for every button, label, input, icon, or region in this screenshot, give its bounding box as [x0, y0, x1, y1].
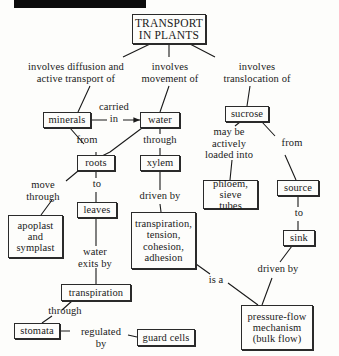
link-label-l-movement: involves movement of: [134, 61, 206, 84]
node-minerals[interactable]: minerals: [43, 112, 91, 128]
node-transport[interactable]: TRANSPORT IN PLANTS: [132, 14, 206, 44]
node-ttca[interactable]: transpiration, tension, cohesion, adhesi…: [131, 212, 196, 269]
link-label-l-through2: through: [40, 305, 90, 317]
node-label-stomata: stomata: [20, 325, 53, 336]
link-label-l-drivenby2: driven by: [249, 263, 307, 275]
node-transpiration[interactable]: transpiration: [61, 284, 131, 301]
node-pressureflow[interactable]: pressure-flow mechanism (bulk flow): [241, 305, 313, 350]
node-label-sucrose: sucrose: [231, 108, 263, 119]
node-label-apoplast: apoplast and symplast: [16, 220, 54, 254]
node-sink[interactable]: sink: [283, 230, 315, 246]
link-label-l-move: move through: [18, 179, 68, 202]
edge-sink-to-pressureflow: [262, 246, 292, 305]
node-label-phloem: phloem, sieve tubes: [207, 178, 254, 212]
node-label-ttca: transpiration, tension, cohesion, adhesi…: [135, 218, 192, 263]
link-label-l-drivenby1: driven by: [131, 190, 189, 202]
link-label-l-to2: to: [290, 207, 308, 219]
node-label-transport: TRANSPORT IN PLANTS: [135, 17, 203, 42]
node-apoplast[interactable]: apoplast and symplast: [8, 215, 63, 258]
node-label-pressureflow: pressure-flow mechanism (bulk flow): [247, 311, 306, 345]
node-water[interactable]: water: [140, 112, 180, 128]
edge-layer: [0, 0, 339, 356]
node-label-xylem: xylem: [147, 157, 174, 168]
node-phloem[interactable]: phloem, sieve tubes: [203, 180, 258, 209]
concept-map-canvas: TRANSPORT IN PLANTSmineralswatersucroser…: [0, 0, 339, 356]
link-label-l-translo: involves translocation of: [212, 61, 302, 84]
node-label-roots: roots: [85, 157, 107, 168]
link-label-l-carried: carried in: [93, 101, 135, 124]
node-label-leaves: leaves: [84, 204, 111, 215]
node-stomata[interactable]: stomata: [14, 323, 60, 339]
link-label-l-through1: through: [135, 134, 185, 146]
link-label-l-regulated: regulated by: [72, 326, 130, 349]
node-label-sink: sink: [290, 232, 308, 243]
link-label-l-maybe: may be actively loaded into: [195, 126, 263, 161]
node-label-source: source: [284, 182, 312, 193]
node-label-minerals: minerals: [49, 114, 86, 125]
node-leaves[interactable]: leaves: [77, 202, 117, 218]
node-guardcells[interactable]: guard cells: [137, 329, 195, 346]
node-label-transpiration: transpiration: [69, 287, 123, 298]
link-label-l-from2: from: [276, 137, 308, 149]
node-xylem[interactable]: xylem: [140, 155, 180, 171]
node-source[interactable]: source: [277, 180, 319, 196]
link-label-l-diffusion: involves diffusion and active transport …: [12, 61, 140, 84]
node-roots[interactable]: roots: [77, 155, 115, 171]
node-label-water: water: [148, 114, 172, 125]
link-label-l-from1: from: [72, 134, 102, 146]
node-label-guardcells: guard cells: [143, 332, 190, 343]
edge-sucrose-to-source: [262, 122, 296, 180]
link-label-l-to1: to: [88, 178, 106, 190]
link-label-l-isa: is a: [203, 274, 229, 286]
node-sucrose[interactable]: sucrose: [225, 106, 269, 122]
link-label-l-waterexits: water exits by: [71, 246, 119, 269]
